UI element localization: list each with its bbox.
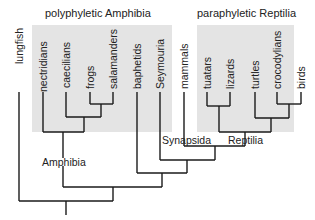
- clade-label-synapsida: Synapsida: [162, 134, 211, 146]
- clade-label-amphibia: Amphibia: [42, 156, 86, 168]
- tree-lines: [0, 0, 315, 220]
- clade-label-reptilia: Reptilia: [228, 134, 263, 146]
